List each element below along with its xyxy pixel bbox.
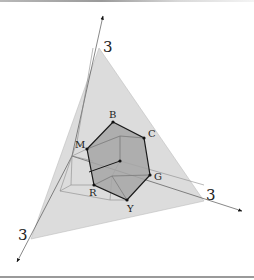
vertex-c-dot bbox=[142, 136, 145, 139]
axis-label-right: 3 bbox=[206, 186, 216, 204]
vertex-y-dot bbox=[125, 198, 128, 201]
label-c: C bbox=[148, 128, 156, 139]
label-b: B bbox=[109, 109, 116, 120]
vertex-g-dot bbox=[148, 173, 151, 176]
vertex-b-dot bbox=[111, 120, 114, 123]
axis-label-top: 3 bbox=[103, 38, 113, 56]
label-r: R bbox=[89, 187, 97, 198]
label-y: Y bbox=[126, 203, 134, 214]
vertex-m-dot bbox=[85, 147, 88, 150]
center-dot bbox=[118, 159, 121, 162]
label-g: G bbox=[154, 171, 162, 182]
color-space-diagram: B C G Y R M 3 3 3 bbox=[0, 0, 254, 280]
axis-label-left: 3 bbox=[18, 226, 28, 244]
label-m: M bbox=[75, 139, 85, 150]
